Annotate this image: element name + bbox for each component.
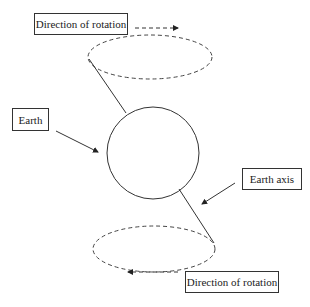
axis-lower-line: [179, 189, 214, 243]
earth-circle: [107, 107, 199, 199]
earth-axis-pointer-arrow: [202, 183, 235, 204]
bottom-rotation-ellipse: [93, 226, 215, 272]
axis-upper-line: [89, 59, 126, 113]
earth-pointer-arrow: [56, 131, 98, 152]
earth-axis-label: Earth axis: [242, 168, 302, 190]
earth-rotation-diagram: Direction of rotation Earth Earth axis D…: [0, 0, 310, 307]
diagram-graphics: [0, 0, 310, 307]
earth-label: Earth: [12, 108, 49, 131]
bottom-rotation-label: Direction of rotation: [185, 271, 279, 293]
top-rotation-label: Direction of rotation: [34, 13, 128, 35]
top-rotation-ellipse: [88, 35, 212, 79]
